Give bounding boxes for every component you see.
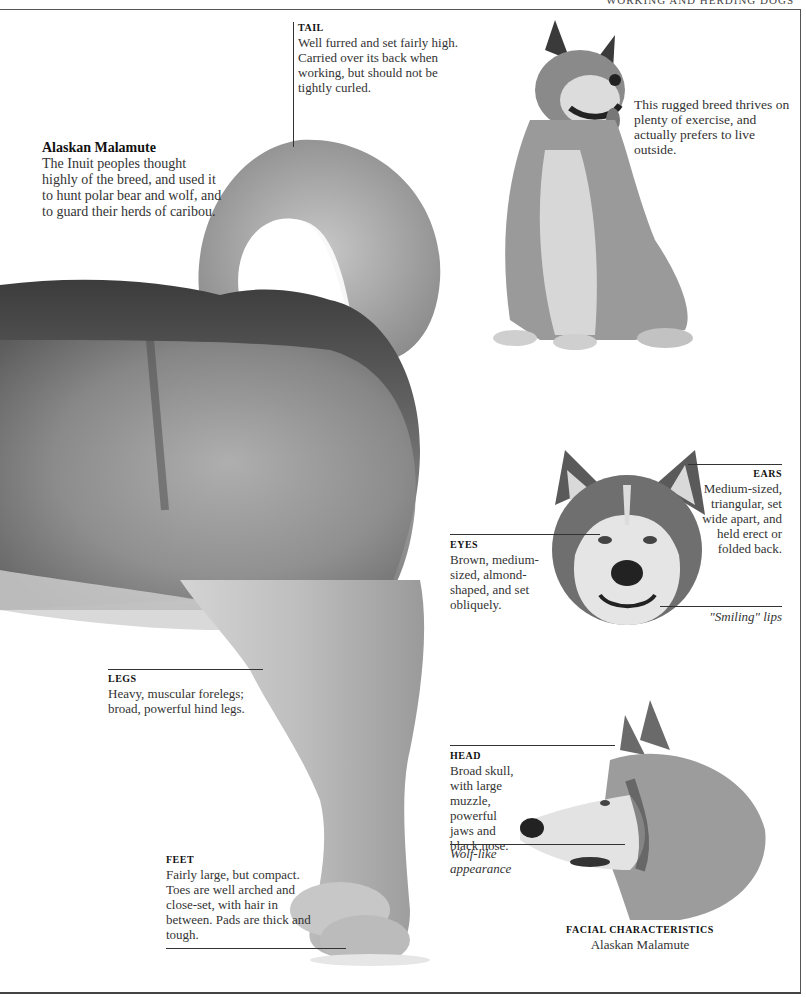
legs-text: Heavy, muscular forelegs; broad, powerfu… <box>108 686 245 716</box>
head-text: Broad skull, with large muzzle, powerful… <box>450 763 514 853</box>
lips-leader-line <box>660 606 782 607</box>
tail-text: Well furred and set fairly high. Carried… <box>298 35 458 95</box>
legs-heading: LEGS <box>108 671 258 686</box>
lips-callout: "Smiling" lips <box>688 609 782 624</box>
sitting-dog-photo <box>485 20 705 350</box>
eyes-leader-line <box>450 534 600 535</box>
tail-leader-line <box>293 22 294 147</box>
wolf-leader-line <box>450 844 625 845</box>
feet-text: Fairly large, but compact. Toes are well… <box>166 867 311 942</box>
intro-block: Alaskan Malamute The Inuit peoples thoug… <box>42 140 222 220</box>
head-leader-line <box>450 745 615 746</box>
running-head: Working and Herding Dogs <box>606 0 794 6</box>
facial-caption-subtitle: Alaskan Malamute <box>591 937 690 952</box>
ears-text: Medium-sized, triangular, set wide apart… <box>702 481 782 556</box>
page-border-right <box>800 9 801 994</box>
legs-callout: LEGS Heavy, muscular forelegs; broad, po… <box>108 671 258 716</box>
head-heading: HEAD <box>450 748 520 763</box>
tail-heading: TAIL <box>298 20 468 35</box>
tail-callout: TAIL Well furred and set fairly high. Ca… <box>298 20 468 95</box>
head-callout: HEAD Broad skull, with large muzzle, pow… <box>450 748 520 853</box>
eyes-callout: EYES Brown, medium-sized, almond-shaped,… <box>450 537 560 612</box>
ears-heading: EARS <box>700 466 782 481</box>
facial-caption: FACIAL CHARACTERISTICS Alaskan Malamute <box>540 922 740 952</box>
page-border-bottom <box>0 992 801 994</box>
page-border-top <box>0 9 800 10</box>
front-head-photo <box>545 445 710 630</box>
side-note: This rugged breed thrives on plenty of e… <box>634 97 794 157</box>
wolf-callout: Wolf-like appearance <box>450 846 530 876</box>
profile-head-photo <box>520 700 770 920</box>
feet-callout: FEET Fairly large, but compact. Toes are… <box>166 852 316 942</box>
eyes-text: Brown, medium-sized, almond-shaped, and … <box>450 552 539 612</box>
feet-heading: FEET <box>166 852 316 867</box>
eyes-heading: EYES <box>450 537 560 552</box>
breed-title: Alaskan Malamute <box>42 140 222 156</box>
ears-leader-line <box>688 464 782 465</box>
feet-leader-line <box>166 948 346 949</box>
intro-text: The Inuit peoples thought highly of the … <box>42 156 221 219</box>
main-dog-photo <box>0 110 460 980</box>
ears-callout: EARS Medium-sized, triangular, set wide … <box>700 466 782 556</box>
legs-leader-line <box>108 669 263 670</box>
facial-caption-heading: FACIAL CHARACTERISTICS <box>540 922 740 937</box>
